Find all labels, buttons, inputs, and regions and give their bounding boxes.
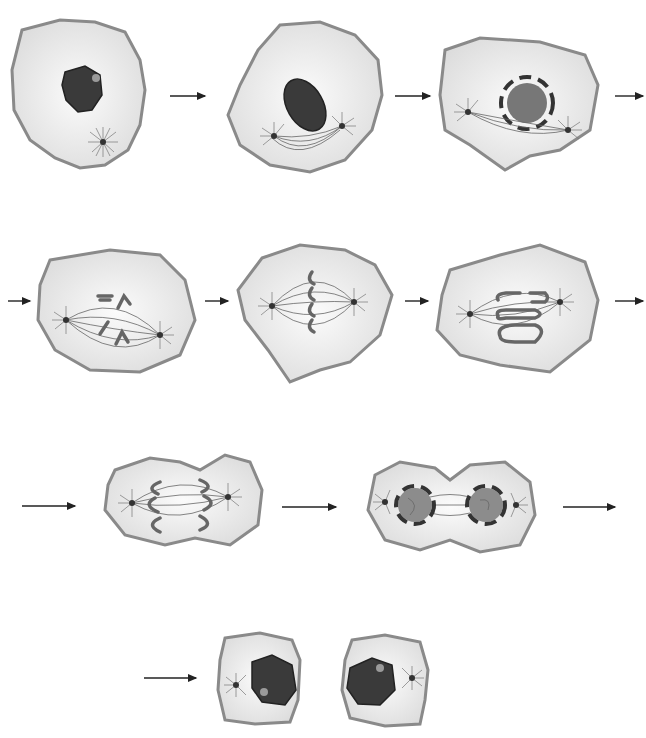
centrosome-icon (465, 109, 471, 115)
centrosome-icon (382, 499, 388, 505)
centrosome-icon (557, 299, 563, 305)
centrosome-icon (339, 123, 345, 129)
centrosome-icon (351, 299, 357, 305)
centrosome-icon (269, 303, 275, 309)
centrosome-icon (225, 494, 231, 500)
late-prometaphase-cell (38, 250, 195, 372)
centrosome-icon (271, 133, 277, 139)
centrosome-icon (565, 127, 571, 133)
late-anaphase-cell (105, 455, 262, 545)
centrosome-icon (233, 682, 239, 688)
telophase-cell (368, 462, 535, 552)
centrosome-icon (467, 311, 473, 317)
centrosome-icon (409, 675, 415, 681)
daughter-cell-left (218, 633, 300, 724)
centrosome-icon (100, 139, 106, 145)
anaphase-cell (437, 245, 598, 372)
centrosome-icon (63, 317, 69, 323)
daughter-cells (218, 633, 428, 726)
daughter-cell-right (342, 635, 428, 726)
centrosome-icon (157, 332, 163, 338)
prometaphase-cell (440, 38, 598, 170)
centrosome-icon (129, 500, 135, 506)
interphase-cell (12, 20, 145, 168)
mitosis-diagram (0, 0, 646, 738)
centrosome-icon (513, 502, 519, 508)
metaphase-cell (238, 245, 392, 382)
early-prophase-cell (228, 22, 382, 172)
